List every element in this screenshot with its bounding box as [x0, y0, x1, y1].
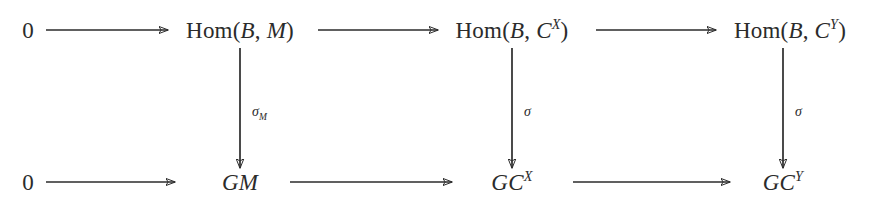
node-bottom-gc-label: GC [491, 170, 523, 195]
sigma-symbol: σ [524, 104, 531, 119]
node-top-hom-cx: Hom(B, CX) [456, 19, 569, 42]
hom-arg-b: B [510, 18, 524, 43]
hom-close-paren: ) [838, 18, 846, 43]
hom-close-paren: ) [286, 18, 294, 43]
node-bottom-gc-superscript-x: X [524, 168, 533, 184]
node-bottom-zero: 0 [22, 171, 34, 194]
node-top-zero-label: 0 [22, 18, 34, 43]
commutative-diagram: 0 Hom(B, M) Hom(B, CX) Hom(B, CY) 0 GM G… [0, 0, 874, 210]
node-bottom-zero-label: 0 [22, 170, 34, 195]
hom-arg-b: B [788, 18, 802, 43]
hom-open-paren: Hom( [734, 18, 788, 43]
hom-comma: , [524, 18, 536, 43]
hom-arg-c: C [815, 18, 831, 43]
node-bottom-gcy: GCY [763, 171, 804, 194]
hom-open-paren: Hom( [456, 18, 510, 43]
hom-arg-b: B [241, 18, 255, 43]
node-bottom-gcx: GCX [491, 171, 532, 194]
edge-label-sigma-cx: σ [524, 105, 531, 119]
node-top-hom-cy: Hom(B, CY) [734, 19, 846, 42]
hom-open-paren: Hom( [186, 18, 240, 43]
hom-arg-m: M [267, 18, 286, 43]
node-bottom-gc-superscript-y: Y [795, 168, 803, 184]
hom-comma: , [255, 18, 267, 43]
node-bottom-gm: GM [222, 171, 258, 194]
edge-label-sigma-m: σM [252, 105, 267, 119]
hom-comma: , [803, 18, 815, 43]
node-bottom-gc-label: GC [763, 170, 795, 195]
sigma-subscript-m: M [259, 112, 267, 122]
sigma-symbol: σ [795, 104, 802, 119]
node-top-hom-m: Hom(B, M) [186, 19, 294, 42]
hom-arg-c-superscript-x: X [552, 16, 561, 32]
node-top-zero: 0 [22, 19, 34, 42]
node-bottom-gm-label: GM [222, 170, 258, 195]
edge-label-sigma-cy: σ [795, 105, 802, 119]
hom-close-paren: ) [561, 18, 569, 43]
hom-arg-c: C [536, 18, 552, 43]
sigma-symbol: σ [252, 104, 259, 119]
